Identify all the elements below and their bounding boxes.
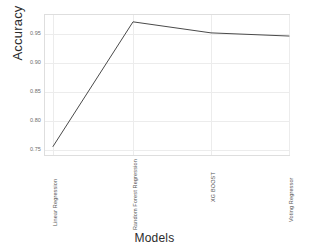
y-tick-label-0: 0.95 [1, 30, 41, 36]
x-axis-title: Models [0, 231, 309, 245]
plot-area [44, 14, 290, 156]
accuracy-line-series [45, 15, 291, 157]
x-axis-tick-labels: Linear Regression Random Forest Regressi… [44, 158, 290, 230]
x-tick-label-3: Voting Regressor [288, 177, 294, 222]
y-tick-label-3: 0.80 [1, 117, 41, 123]
x-tick-label-0: Linear Regression [52, 179, 58, 226]
y-tick-label-1: 0.90 [1, 59, 41, 65]
x-tick-label-1: Random Forest Regression [132, 159, 138, 230]
y-tick-label-4: 0.75 [1, 146, 41, 152]
y-tick-label-2: 0.85 [1, 88, 41, 94]
x-tick-label-2: XG BOOST [210, 172, 216, 202]
y-axis-tick-labels: 0.95 0.90 0.85 0.80 0.75 [0, 14, 41, 156]
series-polyline [53, 22, 289, 147]
accuracy-vs-models-chart: Accuracy 0.95 0.90 0.85 0.80 0.75 Linear… [0, 0, 309, 252]
